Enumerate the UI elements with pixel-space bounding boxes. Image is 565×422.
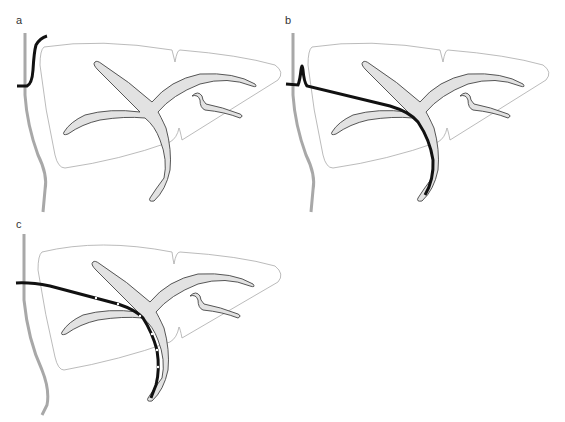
- panel-a: a: [0, 0, 290, 215]
- guidewire: [17, 36, 47, 86]
- biliary-tree: [64, 61, 257, 201]
- panel-c: c: [0, 210, 290, 422]
- panel-b: b: [280, 0, 565, 215]
- biliary-tree: [332, 61, 525, 201]
- panel-b-drawing: [280, 0, 565, 215]
- body-wall: [293, 33, 314, 212]
- panel-a-drawing: [0, 0, 290, 215]
- panel-c-drawing: [0, 210, 290, 422]
- guidewire: [286, 66, 433, 195]
- body-wall: [25, 33, 46, 212]
- body-wall: [24, 234, 48, 415]
